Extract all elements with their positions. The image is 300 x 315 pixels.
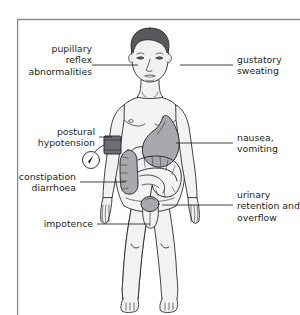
neck [137,80,163,99]
blood-pressure-cuff [94,136,121,154]
label-line: postural [22,126,95,137]
label-line: overflow [237,212,299,223]
label-gustatory-sweating: gustatory sweating [237,54,299,77]
pressure-gauge [83,152,100,169]
label-line: urinary [237,189,299,200]
label-nausea-vomiting: nausea, vomiting [237,132,297,155]
label-line: pupillary [28,43,92,54]
label-postural-hypotension: postural hypotension [22,126,95,149]
label-line: diarrhoea [8,182,76,193]
label-line: reflex [28,54,92,65]
label-line: hypotension [22,137,95,148]
bladder [141,197,159,212]
label-line: retention and [237,200,299,211]
label-line: sweating [237,65,299,76]
label-impotence: impotence [30,218,93,229]
label-line: gustatory [237,54,299,65]
label-line: abnormalities [28,66,92,77]
label-constipation-diarrhoea: constipation diarrhoea [8,171,76,194]
label-line: nausea, [237,132,297,143]
label-line: impotence [30,218,93,229]
label-line: vomiting [237,143,297,154]
label-pupillary-reflex-abnormalities: pupillary reflex abnormalities [28,43,92,77]
label-urinary-retention-overflow: urinary retention and overflow [237,189,299,223]
diagram-frame: pupillary reflex abnormalities gustatory… [0,0,300,315]
label-line: constipation [8,171,76,182]
